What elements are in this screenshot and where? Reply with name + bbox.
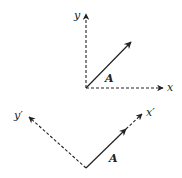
x-axis-label: x [167,81,174,94]
x-prime-axis-label: x′ [146,106,155,119]
y-prime-axis [29,117,86,168]
diagram-svg: y x A y′ x′ A [0,0,182,178]
y-prime-axis-label: y′ [13,109,23,122]
rotated-frame: y′ x′ A [13,106,155,168]
vector-rotation-diagram: y x A y′ x′ A [0,0,182,178]
vector-a-label: A [104,72,114,85]
vector-a-rotated-label: A [108,152,118,165]
x-prime-axis [126,114,142,129]
y-axis-label: y [73,9,81,22]
vector-a-rotated [86,129,126,168]
original-frame: y x A [73,9,174,94]
